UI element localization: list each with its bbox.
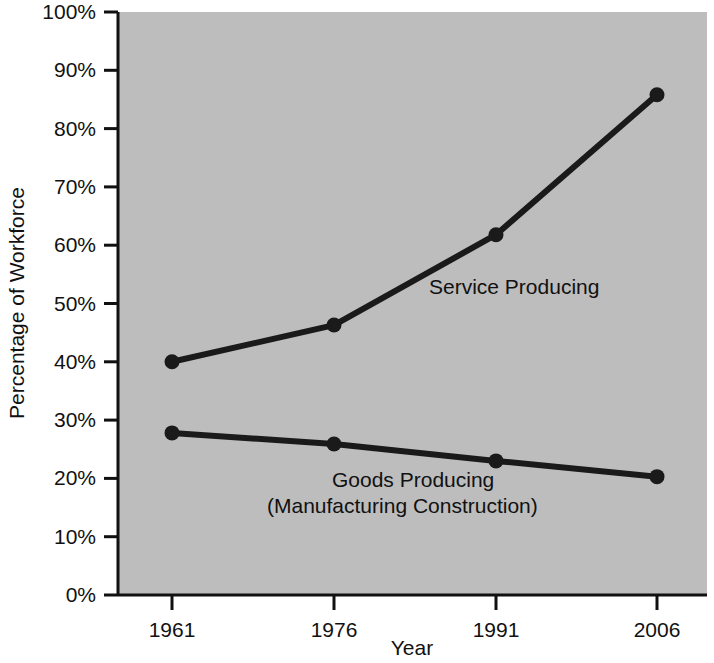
- series-annotation-label: Goods Producing: [332, 468, 494, 491]
- x-axis-tick-label: 1976: [311, 618, 358, 641]
- y-axis-tick-label: 80%: [54, 117, 96, 140]
- y-axis-tick-label: 60%: [54, 233, 96, 256]
- y-axis-title: Percentage of Workforce: [5, 187, 28, 419]
- y-axis-tick-label: 50%: [54, 292, 96, 315]
- y-axis: 0%10%20%30%40%50%60%70%80%90%100%: [42, 0, 118, 606]
- y-axis-tick-label: 100%: [42, 0, 96, 23]
- x-axis-ticks: [172, 595, 657, 610]
- data-point-marker: [650, 87, 665, 102]
- chart-container: 0%10%20%30%40%50%60%70%80%90%100% 196119…: [0, 0, 714, 663]
- y-axis-tick-label: 40%: [54, 350, 96, 373]
- y-axis-tick-label: 0%: [66, 583, 96, 606]
- data-point-marker: [650, 469, 665, 484]
- data-point-marker: [489, 227, 504, 242]
- y-axis-tick-label: 20%: [54, 466, 96, 489]
- data-point-marker: [327, 318, 342, 333]
- x-axis: 1961197619912006: [118, 595, 707, 641]
- y-axis-tick-label: 90%: [54, 58, 96, 81]
- y-axis-tick-label: 30%: [54, 408, 96, 431]
- data-point-marker: [165, 425, 180, 440]
- y-axis-tick-labels: 0%10%20%30%40%50%60%70%80%90%100%: [42, 0, 96, 606]
- data-point-marker: [165, 354, 180, 369]
- y-axis-ticks: [104, 12, 118, 595]
- x-axis-tick-label: 1961: [149, 618, 196, 641]
- x-axis-tick-label: 2006: [634, 618, 681, 641]
- x-axis-tick-label: 1991: [473, 618, 520, 641]
- line-chart: 0%10%20%30%40%50%60%70%80%90%100% 196119…: [0, 0, 714, 663]
- data-point-marker: [489, 453, 504, 468]
- data-point-marker: [327, 437, 342, 452]
- series-annotation-label: Service Producing: [429, 275, 599, 298]
- y-axis-tick-label: 70%: [54, 175, 96, 198]
- x-axis-title: Year: [391, 636, 433, 659]
- series-annotation-label: (Manufacturing Construction): [267, 494, 538, 517]
- y-axis-tick-label: 10%: [54, 525, 96, 548]
